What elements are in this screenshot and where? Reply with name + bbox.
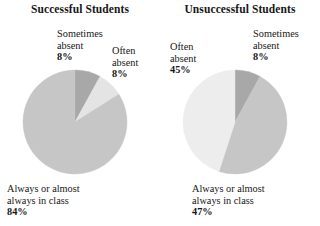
label-line-1: Often [112,45,138,57]
label-line-1: Sometimes [57,28,103,40]
chart-panel-successful: Successful Students Sometimes absent 8% … [0,0,160,226]
label-line-2: always in class [7,195,80,207]
label-unsuccessful-always-in-class: Always or almost always in class 47% [192,183,265,218]
label-percent: 8% [112,68,138,80]
label-unsuccessful-sometimes-absent: Sometimes absent 8% [253,28,299,63]
label-line-2: absent [112,57,138,69]
pie-chart-successful [22,69,128,175]
label-successful-often-absent: Often absent 8% [112,45,138,80]
pie-chart-figure: Successful Students Sometimes absent 8% … [0,0,320,226]
label-line-1: Sometimes [253,28,299,40]
pie-slices-unsuccessful [183,70,287,174]
label-line-2: always in class [192,195,265,207]
pie-svg-successful [22,69,128,175]
label-percent: 84% [7,206,80,218]
label-line-1: Always or almost [192,183,265,195]
label-line-2: absent [170,53,196,65]
label-line-1: Always or almost [7,183,80,195]
label-successful-always-in-class: Always or almost always in class 84% [7,183,80,218]
label-line-1: Often [170,41,196,53]
chart-title-successful: Successful Students [0,3,160,15]
chart-title-unsuccessful: Unsuccessful Students [160,3,320,15]
label-percent: 45% [170,64,196,76]
label-percent: 8% [253,51,299,63]
label-successful-sometimes-absent: Sometimes absent 8% [57,28,103,63]
label-percent: 8% [57,51,103,63]
label-line-2: absent [253,40,299,52]
pie-chart-unsuccessful [182,69,288,175]
pie-slices-successful [23,70,127,174]
pie-svg-unsuccessful [182,69,288,175]
label-line-2: absent [57,40,103,52]
label-unsuccessful-often-absent: Often absent 45% [170,41,196,76]
label-percent: 47% [192,206,265,218]
